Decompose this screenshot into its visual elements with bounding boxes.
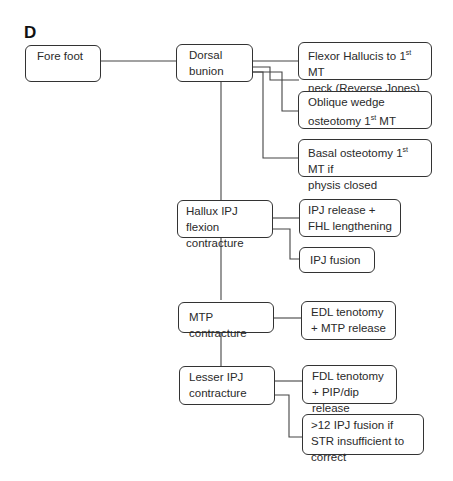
- node-label: Basal osteotomy 1: [308, 147, 403, 159]
- node-label: MT if: [308, 163, 333, 175]
- node-label: EDL tenotomy + MTP release: [311, 306, 386, 334]
- node-label: Lesser IPJ contracture: [189, 371, 247, 399]
- node-label: osteotomy 1: [308, 115, 371, 127]
- node-label: Flexor Hallucis to 1: [308, 50, 406, 62]
- node-flexor-hallucis: Flexor Hallucis to 1st MT neck (Reverse …: [298, 42, 432, 80]
- node-basal-osteotomy: Basal osteotomy 1st MT if physis closed: [298, 139, 432, 177]
- node-label: Hallux IPJ flexion contracture: [186, 205, 244, 249]
- node-lesser-ipj: Lesser IPJ contracture: [179, 366, 275, 405]
- node-label: MT: [376, 115, 396, 127]
- node-label: Fore foot: [37, 50, 83, 62]
- node-label: physis closed: [308, 179, 377, 191]
- diagram-canvas: D Fore foot Dorsal bunion Flexor Halluci…: [0, 0, 453, 481]
- node-label: MTP contracture: [189, 311, 247, 339]
- node-oblique-wedge: Oblique wedge osteotomy 1st MT: [298, 91, 432, 129]
- node-ipj-fusion: IPJ fusion: [299, 247, 375, 273]
- node-mtp-contracture: MTP contracture: [178, 302, 274, 333]
- node-hallux-ipj: Hallux IPJ flexion contracture: [177, 200, 273, 238]
- node-fore-foot: Fore foot: [25, 45, 101, 82]
- node-ipj-fusion-str: >12 IPJ fusion if STR insufficient to co…: [302, 414, 424, 455]
- node-label: Dorsal bunion: [189, 49, 224, 77]
- node-label: Oblique wedge: [308, 96, 385, 108]
- node-ipj-release-fhl: IPJ release + FHL lengthening: [299, 199, 401, 237]
- node-label: MT: [308, 66, 325, 78]
- node-label: IPJ fusion: [310, 254, 361, 266]
- node-dorsal-bunion: Dorsal bunion: [176, 44, 253, 82]
- node-fdl-tenotomy: FDL tenotomy + PIP/dip release: [302, 365, 397, 404]
- superscript: st: [403, 146, 408, 153]
- node-edl-tenotomy: EDL tenotomy + MTP release: [301, 301, 396, 340]
- node-label: IPJ release + FHL lengthening: [308, 204, 392, 232]
- superscript: st: [406, 49, 411, 56]
